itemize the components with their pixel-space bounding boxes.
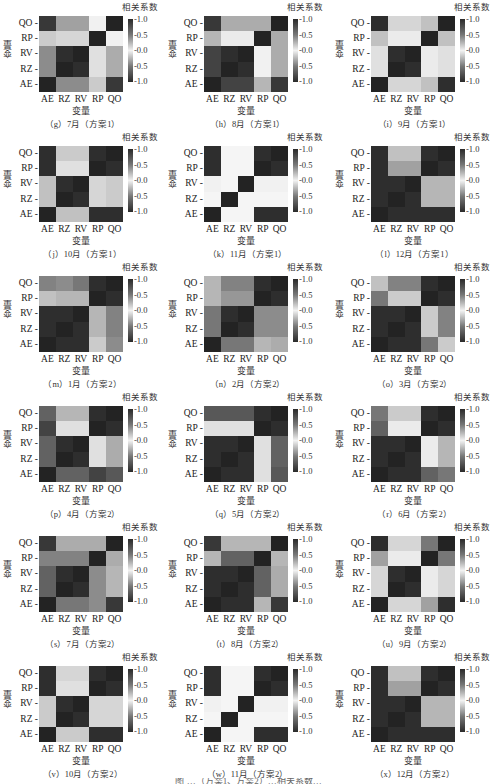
colorbar-ticks: -1.0-0.5-0.0-0.5-1.0 (134, 274, 164, 348)
y-tick-label: RP - (186, 551, 203, 566)
heatmap-cell (438, 337, 455, 352)
y-tick-label: RP - (353, 421, 370, 436)
y-tick-label: QO - (351, 666, 370, 681)
heatmap-cell (39, 62, 56, 77)
colorbar-tick: -0.0 (134, 435, 147, 445)
heatmap-cell (388, 192, 405, 207)
y-tick-labels: QO -RP -RV -RZ -AE - (181, 276, 203, 352)
heatmap-cell (271, 31, 288, 46)
x-axis-label: 变量 (204, 624, 288, 637)
heatmap-panel: 相关系数变量QO -RP -RV -RZ -AE -AERZRVRPQO变量-1… (332, 650, 497, 780)
heatmap-cell (73, 421, 90, 436)
heatmap-cell (89, 146, 106, 161)
y-tick-label: QO - (184, 16, 203, 31)
heatmap-panel: 相关系数变量QO -RP -RV -RZ -AE -AERZRVRPQO变量-1… (332, 0, 497, 130)
colorbar-tick: -0.5 (134, 191, 147, 201)
heatmap-cell (89, 77, 106, 92)
heatmap-cell (73, 696, 90, 711)
heatmap-cell (89, 452, 106, 467)
heatmap-cell (405, 176, 422, 191)
y-tick-labels: QO -RP -RV -RZ -AE - (348, 146, 370, 222)
colorbar-tick: -1.0 (466, 404, 479, 414)
heatmap-cell (106, 161, 123, 176)
y-tick-label: RV - (20, 306, 38, 321)
y-tick-label: QO - (184, 406, 203, 421)
heatmap-cell (73, 306, 90, 321)
heatmap-cell (388, 681, 405, 696)
heatmap-cell (89, 46, 106, 61)
panel-caption: （t）8月（方案2） (165, 637, 330, 649)
heatmap-cell (371, 551, 388, 566)
heatmap-cell (221, 406, 238, 421)
y-tick-label: AE - (352, 337, 370, 352)
heatmap-cell (56, 62, 73, 77)
heatmap-cell (106, 406, 123, 421)
heatmap-cell (405, 566, 422, 581)
heatmap-cell (271, 161, 288, 176)
y-tick-label: AE - (20, 77, 38, 92)
y-tick-label: RV - (20, 436, 38, 451)
heatmap-cell (238, 16, 255, 31)
heatmap-cell (438, 306, 455, 321)
heatmap-cell (271, 666, 288, 681)
heatmap-cell (405, 31, 422, 46)
y-tick-label: QO - (351, 276, 370, 291)
heatmap-cell (56, 322, 73, 337)
heatmap-cell (405, 421, 422, 436)
heatmap-cell (56, 551, 73, 566)
heatmap-cell (438, 712, 455, 727)
colorbar-tick: -0.5 (134, 420, 147, 430)
y-tick-label: RZ - (352, 452, 370, 467)
y-tick-label: QO - (184, 276, 203, 291)
colorbar (128, 149, 133, 212)
heatmap-cell (238, 467, 255, 482)
heatmap-cell (106, 146, 123, 161)
colorbar (128, 19, 133, 82)
y-tick-label: RP - (353, 291, 370, 306)
heatmap-cell (388, 176, 405, 191)
heatmap-cell (371, 436, 388, 451)
colorbar-tick: -0.5 (466, 30, 479, 40)
heatmap-cell (238, 337, 255, 352)
heatmap-cell (106, 16, 123, 31)
heatmap-cell (371, 31, 388, 46)
y-tick-label: RV - (352, 696, 370, 711)
heatmap-cell (388, 337, 405, 352)
y-tick-labels: QO -RP -RV -RZ -AE - (181, 406, 203, 482)
colorbar-tick: -0.0 (466, 435, 479, 445)
heatmap-cell (421, 77, 438, 92)
y-tick-label: RV - (352, 436, 370, 451)
y-tick-label: RP - (353, 31, 370, 46)
heatmap-cell (388, 666, 405, 681)
colorbar-tick: -1.0 (299, 144, 312, 154)
heatmap-cell (89, 291, 106, 306)
heatmap-cell (73, 681, 90, 696)
heatmap-cell (421, 16, 438, 31)
panel-caption: （n）2月（方案2） (165, 377, 330, 389)
heatmap-cell (56, 597, 73, 612)
y-axis-label: 变量 (334, 430, 346, 448)
heatmap-cell (39, 536, 56, 551)
colorbar-tick: -1.0 (299, 274, 312, 284)
y-tick-labels: QO -RP -RV -RZ -AE - (348, 406, 370, 482)
heatmap-cell (405, 597, 422, 612)
y-tick-label: AE - (185, 597, 203, 612)
heatmap (371, 146, 455, 222)
colorbar-title: 相关系数 (454, 0, 490, 12)
heatmap-cell (221, 16, 238, 31)
heatmap-cell (254, 16, 271, 31)
colorbar (460, 19, 465, 82)
heatmap-cell (73, 406, 90, 421)
y-tick-label: RZ - (352, 582, 370, 597)
heatmap-cell (421, 536, 438, 551)
heatmap-cell (421, 566, 438, 581)
heatmap-cell (89, 161, 106, 176)
y-tick-label: RV - (352, 46, 370, 61)
heatmap-cell (438, 566, 455, 581)
y-tick-label: RP - (186, 291, 203, 306)
heatmap-cell (39, 696, 56, 711)
colorbar (460, 279, 465, 342)
colorbar-title: 相关系数 (122, 390, 158, 402)
heatmap-cell (371, 536, 388, 551)
y-tick-label: RP - (186, 31, 203, 46)
